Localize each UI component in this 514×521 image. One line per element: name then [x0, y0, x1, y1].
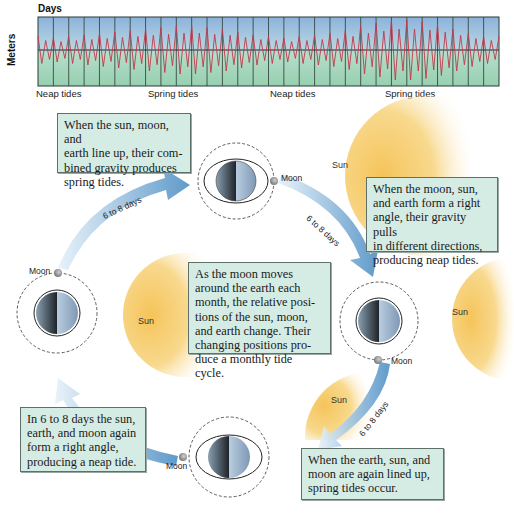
- earth-bottom: [179, 417, 269, 497]
- callout-line: around the earth each: [195, 281, 324, 295]
- callout-line: When the earth, sun, and: [308, 453, 437, 467]
- callout-line: moon are again lined up,: [308, 467, 437, 481]
- callout-line: in different directions,: [373, 239, 491, 253]
- moon-label-right: Moon: [391, 356, 412, 366]
- sun-label-right: Sun: [452, 307, 468, 317]
- moon-label-left: Moon: [29, 266, 50, 276]
- callout-line: angle, their gravity pulls: [373, 210, 491, 238]
- earth-top: [198, 143, 278, 219]
- sun-label-bottom: Sun: [331, 395, 347, 405]
- callout-line: producing neap tides.: [373, 253, 491, 267]
- callout-line: As the moon moves: [195, 267, 324, 281]
- callout-line: When the moon, sun,: [373, 182, 491, 196]
- callout-line: When the sun, moon, and: [64, 118, 184, 146]
- earth-left: [17, 269, 97, 353]
- callout-line: earth, and moon again: [27, 426, 139, 440]
- callout-line: month, the relative posi-: [195, 295, 324, 309]
- callout-line: producing a neap tide.: [27, 455, 139, 469]
- callout-line: and earth form a right: [373, 196, 491, 210]
- callout-line: spring tides occur.: [308, 481, 437, 495]
- callout-line: spring tides.: [64, 175, 184, 189]
- callout-line: In 6 to 8 days the sun,: [27, 412, 139, 426]
- callout-neap-right-angle: When the moon, sun, and earth form a rig…: [366, 177, 498, 252]
- callout-spring-lineup: When the sun, moon, and earth line up, t…: [57, 113, 191, 173]
- callout-spring-again: When the earth, sun, and moon are again …: [301, 448, 444, 500]
- callout-line: bined gravity produces: [64, 161, 184, 175]
- sun-right: [452, 257, 514, 381]
- callout-neap-again: In 6 to 8 days the sun, earth, and moon …: [20, 407, 146, 472]
- callout-monthly-cycle: As the moon moves around the earth each …: [188, 262, 331, 354]
- moon-label-bottom: Moon: [166, 461, 187, 471]
- callout-line: tions of the sun, moon,: [195, 310, 324, 324]
- moon-label-top: Moon: [281, 173, 302, 183]
- callout-line: form a right angle,: [27, 440, 139, 454]
- earth-right: [340, 282, 418, 364]
- callout-line: duce a monthly tide cycle.: [195, 352, 324, 380]
- callout-line: and earth change. Their: [195, 324, 324, 338]
- callout-line: earth line up, their com-: [64, 146, 184, 160]
- sun-label-left: Sun: [138, 316, 154, 326]
- sun-label-top: Sun: [332, 160, 348, 170]
- callout-line: changing positions pro-: [195, 338, 324, 352]
